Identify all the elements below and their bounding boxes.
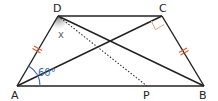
angle-label-D: x: [58, 29, 64, 40]
vertex-label-P: P: [143, 89, 150, 101]
vertex-label-C: C: [159, 2, 167, 15]
angle-label-A: 60°: [38, 67, 56, 78]
right-angle-marker: [152, 21, 166, 31]
segment-DP-dotted: [58, 16, 147, 86]
geometry-diagram: 60° x D C A P B: [0, 0, 218, 101]
right-angle-marker: [151, 21, 164, 30]
vertex-label-A: A: [11, 89, 19, 101]
vertex-label-D: D: [53, 2, 61, 15]
vertex-label-B: B: [199, 89, 207, 101]
